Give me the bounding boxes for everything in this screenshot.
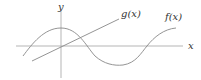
f-curve-label: f(x) (164, 11, 182, 22)
f-curve (23, 28, 176, 65)
g-curve-label: g(x) (121, 8, 141, 19)
y-axis-label: y (57, 1, 64, 12)
x-axis-label: x (188, 40, 194, 51)
g-curve (32, 19, 119, 61)
function-graph: y x g(x) f(x) (0, 0, 201, 80)
